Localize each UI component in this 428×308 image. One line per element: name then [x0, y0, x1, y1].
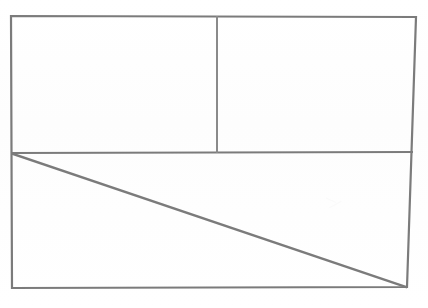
horizontal-divider	[11, 152, 413, 153]
line-drawing-svg	[0, 0, 428, 308]
drawing-canvas	[0, 0, 428, 308]
diagonal-line	[13, 154, 406, 287]
faint-scan-artifact	[326, 198, 341, 208]
